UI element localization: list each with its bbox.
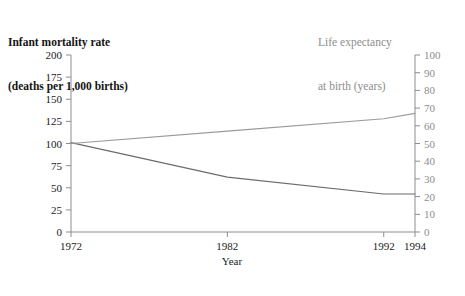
x-axis-tick-label: 1972 (60, 240, 82, 252)
series-line-life-expectancy-at-birth (71, 113, 415, 143)
chart-canvas: 0255075100125150175200 01020304050607080… (0, 0, 465, 296)
right-axis-tick-label: 40 (424, 155, 436, 167)
left-axis-tick-label: 125 (46, 115, 63, 127)
x-axis-tick-label: 1992 (373, 240, 395, 252)
x-axis-tick-label: 1994 (404, 240, 427, 252)
right-axis-tick-label: 60 (424, 120, 436, 132)
left-axis-tick-label: 0 (57, 226, 63, 238)
left-axis-tick-label: 150 (46, 93, 63, 105)
data-series-layer (71, 113, 415, 194)
x-axis-ticks: 1972198219921994 (60, 232, 427, 252)
right-axis-tick-label: 100 (424, 49, 441, 61)
left-axis-tick-label: 50 (51, 182, 63, 194)
x-axis-tick-label: 1982 (216, 240, 238, 252)
right-axis-tick-label: 30 (424, 173, 436, 185)
series-line-infant-mortality-rate (71, 143, 415, 194)
right-axis-tick-label: 10 (424, 208, 436, 220)
left-axis-tick-label: 25 (51, 204, 63, 216)
axis-lines (71, 55, 415, 232)
left-axis-tick-label: 175 (46, 71, 63, 83)
right-axis-tick-label: 80 (424, 84, 436, 96)
left-axis-tick-label: 200 (46, 49, 63, 61)
x-axis-label: Year (222, 255, 243, 267)
left-axis-tick-label: 75 (51, 160, 63, 172)
right-axis-tick-label: 50 (424, 138, 436, 150)
chart-figure: Infant mortality rate (deaths per 1,000 … (0, 0, 465, 296)
right-axis-tick-label: 20 (424, 191, 436, 203)
left-axis-tick-label: 100 (46, 138, 63, 150)
right-axis-tick-label: 0 (424, 226, 430, 238)
right-axis-ticks: 0102030405060708090100 (415, 49, 441, 238)
left-axis-ticks: 0255075100125150175200 (46, 49, 72, 238)
right-axis-tick-label: 70 (424, 102, 436, 114)
right-axis-tick-label: 90 (424, 67, 436, 79)
